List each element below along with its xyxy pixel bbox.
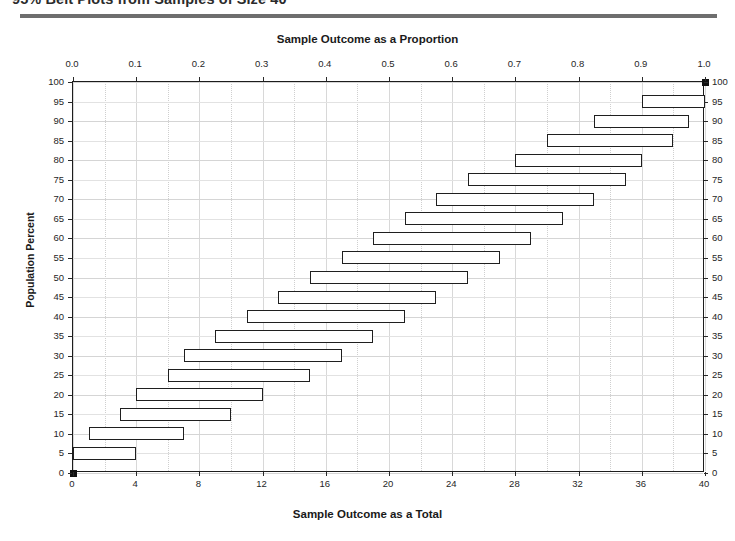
- bottom-axis-title: Sample Outcome as a Total: [0, 508, 735, 520]
- tickmark-bottom: [389, 472, 390, 476]
- tick-label-population-right: 80: [712, 154, 735, 165]
- belt-bar: [310, 271, 468, 284]
- tickmark-left: [68, 219, 72, 220]
- tick-label-population-left: 45: [36, 291, 64, 302]
- belt-bar: [184, 349, 342, 362]
- tick-label-proportion: 0.1: [129, 58, 142, 69]
- tickmark-right: [704, 199, 708, 200]
- tick-label-total: 0: [69, 478, 74, 489]
- tick-label-population-right: 60: [712, 232, 735, 243]
- tick-label-population-right: 5: [712, 447, 735, 458]
- tick-label-population-left: 85: [36, 134, 64, 145]
- tickmark-left: [68, 258, 72, 259]
- tickmark-bottom: [326, 472, 327, 476]
- tickmark-right: [704, 258, 708, 259]
- tickmark-bottom: [515, 472, 516, 476]
- gridline-horizontal: [73, 199, 703, 200]
- tickmark-left: [68, 278, 72, 279]
- tickmark-left: [68, 414, 72, 415]
- tickmark-left: [68, 82, 72, 83]
- tick-label-total: 20: [383, 478, 394, 489]
- gridline-horizontal: [73, 82, 703, 83]
- tick-label-total: 12: [256, 478, 267, 489]
- tick-label-population-left: 20: [36, 388, 64, 399]
- belt-bar: [342, 251, 500, 264]
- belt-bar: [215, 330, 373, 343]
- tick-label-proportion: 0.0: [65, 58, 78, 69]
- tick-label-population-left: 100: [36, 76, 64, 87]
- belt-bar: [120, 408, 231, 421]
- tick-label-population-right: 50: [712, 271, 735, 282]
- tick-label-population-left: 5: [36, 447, 64, 458]
- tick-label-population-left: 75: [36, 173, 64, 184]
- tick-label-population-right: 25: [712, 369, 735, 380]
- tick-label-population-left: 50: [36, 271, 64, 282]
- tickmark-left: [68, 453, 72, 454]
- tick-label-proportion: 0.8: [571, 58, 584, 69]
- belt-bar: [278, 291, 436, 304]
- tickmark-left: [68, 434, 72, 435]
- belt-bar: [436, 193, 594, 206]
- tick-label-total: 32: [572, 478, 583, 489]
- tickmark-left: [68, 141, 72, 142]
- tickmark-right: [704, 141, 708, 142]
- tick-label-population-left: 70: [36, 193, 64, 204]
- tickmark-right: [704, 238, 708, 239]
- tickmark-right: [704, 278, 708, 279]
- tickmark-left: [68, 102, 72, 103]
- tick-label-total: 28: [509, 478, 520, 489]
- tickmark-top: [326, 77, 327, 81]
- figure-title: 95% Belt Plots from Samples of Size 40: [12, 0, 287, 7]
- tick-label-population-right: 40: [712, 310, 735, 321]
- tick-label-population-right: 35: [712, 330, 735, 341]
- tickmark-right: [704, 473, 708, 474]
- tick-label-population-left: 10: [36, 427, 64, 438]
- tick-label-total: 36: [636, 478, 647, 489]
- tickmark-right: [704, 317, 708, 318]
- tickmark-left: [68, 375, 72, 376]
- tick-label-population-right: 20: [712, 388, 735, 399]
- tick-label-proportion: 0.4: [318, 58, 331, 69]
- tickmark-left: [68, 160, 72, 161]
- tickmark-top: [136, 77, 137, 81]
- tick-label-proportion: 0.5: [381, 58, 394, 69]
- tickmark-bottom: [263, 472, 264, 476]
- belt-bar: [642, 95, 705, 108]
- tick-label-population-right: 90: [712, 115, 735, 126]
- tickmark-right: [704, 375, 708, 376]
- tick-label-population-left: 15: [36, 408, 64, 419]
- tickmark-right: [704, 121, 708, 122]
- tick-label-proportion: 0.6: [445, 58, 458, 69]
- tickmark-bottom: [136, 472, 137, 476]
- tick-label-total: 40: [699, 478, 710, 489]
- tickmark-right: [704, 297, 708, 298]
- title-divider: [20, 14, 717, 18]
- belt-bar: [73, 447, 136, 460]
- tick-label-population-right: 0: [712, 467, 735, 478]
- tick-label-population-right: 65: [712, 212, 735, 223]
- tickmark-bottom: [199, 472, 200, 476]
- tickmark-right: [704, 102, 708, 103]
- tickmark-left: [68, 199, 72, 200]
- tick-label-population-right: 70: [712, 193, 735, 204]
- tick-label-population-left: 60: [36, 232, 64, 243]
- tickmark-top: [263, 77, 264, 81]
- tickmark-top: [579, 77, 580, 81]
- tick-label-proportion: 0.2: [192, 58, 205, 69]
- tick-label-population-left: 35: [36, 330, 64, 341]
- tickmark-left: [68, 336, 72, 337]
- tickmark-bottom: [73, 472, 74, 476]
- gridline-horizontal: [73, 102, 703, 103]
- tickmark-top: [73, 77, 74, 81]
- tick-label-population-left: 0: [36, 467, 64, 478]
- tickmark-right: [704, 356, 708, 357]
- tick-label-population-right: 55: [712, 251, 735, 262]
- tick-label-population-left: 30: [36, 349, 64, 360]
- tick-label-total: 16: [320, 478, 331, 489]
- tick-label-proportion: 0.3: [255, 58, 268, 69]
- gridline-horizontal: [73, 453, 703, 454]
- tick-label-proportion: 0.7: [508, 58, 521, 69]
- gridline-horizontal: [73, 219, 703, 220]
- belt-bar: [373, 232, 531, 245]
- gridline-horizontal: [73, 473, 703, 474]
